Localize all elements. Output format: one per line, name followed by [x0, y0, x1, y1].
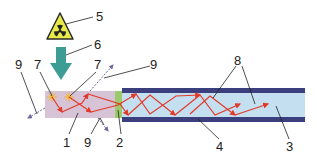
radiation-hazard-icon: [47, 13, 73, 39]
label-8: 8: [234, 53, 241, 68]
label-7-right: 7: [94, 57, 101, 72]
fiber-cladding-top: [122, 88, 305, 93]
label-1: 1: [63, 135, 70, 150]
label-3: 3: [286, 139, 293, 154]
label-5: 5: [96, 9, 103, 24]
label-6: 6: [94, 37, 101, 52]
incident-radiation-arrow: [50, 47, 72, 80]
label-9-left: 9: [15, 57, 22, 72]
label-2: 2: [116, 135, 123, 150]
label-9-top: 9: [150, 57, 157, 72]
label-9-bottom: 9: [84, 135, 91, 150]
fiber-cladding-bottom: [122, 117, 305, 122]
label-4: 4: [216, 139, 223, 154]
diagram: 5 6 9 7 7 9 8 1 9 2 4 3: [0, 0, 317, 156]
label-7-left: 7: [34, 57, 41, 72]
optical-fiber: [122, 88, 305, 122]
